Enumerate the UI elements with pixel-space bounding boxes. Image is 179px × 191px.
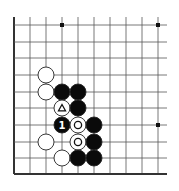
black-stone (54, 84, 70, 100)
white-stone (54, 150, 70, 166)
black-stone (86, 150, 102, 166)
black-stone (86, 117, 102, 133)
move-number-label: 1 (59, 120, 66, 131)
white-stone (70, 117, 86, 133)
black-stone (70, 150, 86, 166)
black-stone: 1 (54, 117, 70, 133)
black-stone (86, 134, 102, 150)
white-stone (38, 84, 54, 100)
white-stone (38, 134, 54, 150)
star-point (60, 23, 64, 27)
stones: 1 (38, 67, 102, 166)
star-point (156, 123, 160, 127)
black-stone (70, 84, 86, 100)
star-point (156, 23, 160, 27)
white-stone (70, 134, 86, 150)
black-stone (70, 100, 86, 116)
white-stone (54, 100, 70, 116)
go-board-diagram: 1 (0, 0, 179, 191)
white-stone (38, 67, 54, 83)
